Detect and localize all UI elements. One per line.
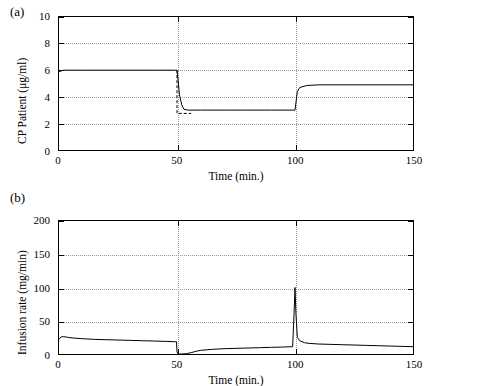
panel-a-xtick-3: 150 — [406, 154, 423, 166]
panel-a-ytick-3: 6 — [20, 64, 50, 76]
panel-b-ytick-4: 200 — [20, 214, 50, 226]
panel-a-ytick-4: 8 — [20, 37, 50, 49]
panel-b: (b) Infusion rate (mg/min) 0 50 100 150 … — [0, 190, 485, 386]
panel-a-ytick-2: 4 — [20, 91, 50, 103]
panel-b-ytick-3: 150 — [20, 248, 50, 260]
panel-a-ytick-1: 2 — [20, 118, 50, 130]
panel-a-series-line — [59, 17, 414, 151]
panel-a-xtick-2: 100 — [287, 154, 304, 166]
panel-b-series-line — [59, 221, 414, 355]
panel-b-xtick-1: 50 — [171, 358, 182, 370]
figure-container: (a) CP Patient (μg/ml) 0 2 4 6 8 10 0 50… — [0, 0, 485, 386]
panel-b-xtick-0: 0 — [55, 358, 61, 370]
panel-b-ytick-0: 0 — [20, 349, 50, 361]
panel-b-x-axis-title: Time (min.) — [136, 374, 336, 386]
panel-b-ytick-1: 50 — [20, 315, 50, 327]
panel-b-xtick-3: 150 — [406, 358, 423, 370]
panel-a-xtick-0: 0 — [55, 154, 61, 166]
panel-a-plot-area — [58, 16, 414, 151]
panel-b-ytick-2: 100 — [20, 282, 50, 294]
panel-a: (a) CP Patient (μg/ml) 0 2 4 6 8 10 0 50… — [0, 0, 485, 190]
panel-b-xtick-2: 100 — [287, 358, 304, 370]
panel-a-x-axis-title: Time (min.) — [136, 170, 336, 182]
panel-a-xtick-1: 50 — [171, 154, 182, 166]
panel-a-ytick-0: 0 — [20, 145, 50, 157]
panel-b-plot-area — [58, 220, 414, 355]
panel-b-label: (b) — [10, 190, 25, 206]
panel-b-y-axis-title: Infusion rate (mg/min) — [16, 250, 28, 355]
panel-a-ytick-5: 10 — [20, 10, 50, 22]
